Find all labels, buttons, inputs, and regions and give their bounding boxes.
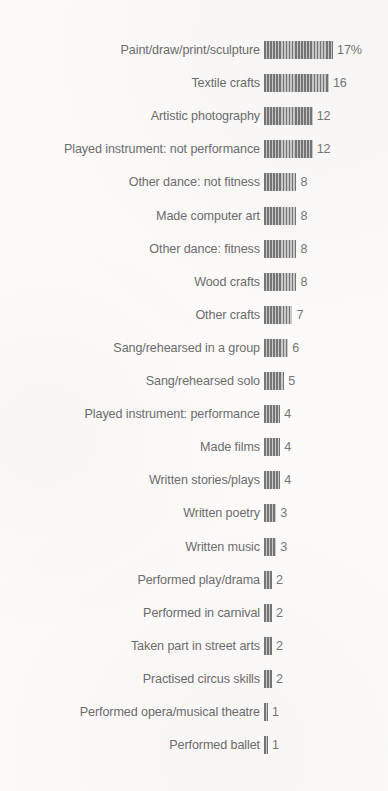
- bar: [264, 207, 296, 225]
- bar: [264, 538, 276, 556]
- bar-category-label: Practised circus skills: [0, 672, 264, 686]
- bar-row: Written stories/plays4: [0, 469, 388, 491]
- bar-row: Played instrument: performance4: [0, 403, 388, 425]
- bar-category-label: Taken part in street arts: [0, 639, 264, 653]
- bar: [264, 637, 272, 655]
- bar-row: Performed opera/musical theatre1: [0, 701, 388, 723]
- bar-row: Written poetry3: [0, 502, 388, 524]
- bar: [264, 41, 333, 59]
- bar-row: Sang/rehearsed solo5: [0, 370, 388, 392]
- bar-category-label: Sang/rehearsed solo: [0, 374, 264, 388]
- bar-row: Textile crafts16: [0, 72, 388, 94]
- bar-value-label: 16: [329, 76, 347, 90]
- bar-category-label: Other dance: fitness: [0, 242, 264, 256]
- bar: [264, 504, 276, 522]
- bar-value-label: 4: [280, 473, 291, 487]
- bar-row: Made computer art8: [0, 205, 388, 227]
- bar: [264, 604, 272, 622]
- bar-value-label: 2: [272, 672, 283, 686]
- bar-row: Other dance: not fitness8: [0, 171, 388, 193]
- bar: [264, 273, 296, 291]
- bar-row: Paint/draw/print/sculpture17%: [0, 39, 388, 61]
- bar-value-label: 17%: [333, 43, 362, 57]
- bar-row: Performed ballet1: [0, 734, 388, 756]
- bar-category-label: Sang/rehearsed in a group: [0, 341, 264, 355]
- bar-category-label: Played instrument: not performance: [0, 142, 264, 156]
- bar: [264, 405, 280, 423]
- bar-value-label: 2: [272, 606, 283, 620]
- bar-row: Other dance: fitness8: [0, 238, 388, 260]
- bar-category-label: Wood crafts: [0, 275, 264, 289]
- bar-value-label: 3: [276, 540, 287, 554]
- bar-category-label: Performed ballet: [0, 738, 264, 752]
- bar-row: Wood crafts8: [0, 271, 388, 293]
- bar-row: Artistic photography12: [0, 105, 388, 127]
- bar: [264, 471, 280, 489]
- bar-row: Taken part in street arts2: [0, 635, 388, 657]
- bar-row: Written music3: [0, 536, 388, 558]
- bar-value-label: 1: [268, 738, 279, 752]
- bar-value-label: 1: [268, 705, 279, 719]
- bar-row: Performed in carnival2: [0, 602, 388, 624]
- bar-category-label: Paint/draw/print/sculpture: [0, 43, 264, 57]
- bar: [264, 306, 292, 324]
- bar-category-label: Played instrument: performance: [0, 407, 264, 421]
- bar-category-label: Artistic photography: [0, 109, 264, 123]
- bar-row: Played instrument: not performance12: [0, 138, 388, 160]
- bar-row: Practised circus skills2: [0, 668, 388, 690]
- bar-row: Performed play/drama2: [0, 569, 388, 591]
- bar: [264, 74, 329, 92]
- bar-value-label: 8: [296, 242, 307, 256]
- bar-value-label: 2: [272, 573, 283, 587]
- bar-category-label: Made films: [0, 440, 264, 454]
- bar-value-label: 4: [280, 440, 291, 454]
- bar-category-label: Other crafts: [0, 308, 264, 322]
- bar-row: Other crafts7: [0, 304, 388, 326]
- bar-category-label: Other dance: not fitness: [0, 175, 264, 189]
- bar: [264, 571, 272, 589]
- bar-value-label: 7: [292, 308, 303, 322]
- bar-value-label: 3: [276, 506, 287, 520]
- bar-value-label: 12: [313, 142, 331, 156]
- bar-value-label: 12: [313, 109, 331, 123]
- bar-value-label: 6: [288, 341, 299, 355]
- bar-category-label: Written stories/plays: [0, 473, 264, 487]
- bar-category-label: Performed play/drama: [0, 573, 264, 587]
- bar-value-label: 8: [296, 209, 307, 223]
- bar-value-label: 5: [284, 374, 295, 388]
- bar: [264, 240, 296, 258]
- bar: [264, 339, 288, 357]
- bar-row: Made films4: [0, 436, 388, 458]
- bar-category-label: Performed in carnival: [0, 606, 264, 620]
- bar-row: Sang/rehearsed in a group6: [0, 337, 388, 359]
- bar-value-label: 8: [296, 175, 307, 189]
- bar-category-label: Made computer art: [0, 209, 264, 223]
- bar: [264, 670, 272, 688]
- bar-category-label: Written poetry: [0, 506, 264, 520]
- bar-value-label: 8: [296, 275, 307, 289]
- bar: [264, 438, 280, 456]
- bar-category-label: Textile crafts: [0, 76, 264, 90]
- bar-category-label: Performed opera/musical theatre: [0, 705, 264, 719]
- bar: [264, 173, 296, 191]
- horizontal-bar-chart: Paint/draw/print/sculpture17%Textile cra…: [0, 0, 388, 791]
- bar: [264, 107, 313, 125]
- bar-category-label: Written music: [0, 540, 264, 554]
- bar: [264, 372, 284, 390]
- bar-value-label: 2: [272, 639, 283, 653]
- bar-value-label: 4: [280, 407, 291, 421]
- bar: [264, 140, 313, 158]
